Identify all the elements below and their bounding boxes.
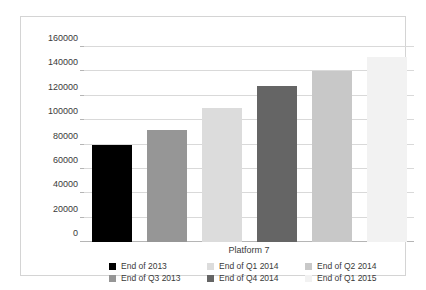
legend-label: End of Q1 2014	[219, 262, 279, 271]
y-tick-label: 20000	[53, 204, 78, 213]
bar	[367, 57, 407, 242]
legend-label: End of Q2 2014	[317, 262, 377, 271]
legend-label: End of Q3 2013	[121, 274, 181, 283]
legend-item[interactable]: End of Q1 2015	[305, 272, 397, 284]
bar	[147, 130, 187, 242]
y-tick-label: 40000	[53, 180, 78, 189]
legend-swatch-icon	[109, 263, 116, 270]
legend-item[interactable]: End of Q3 2013	[109, 272, 201, 284]
x-axis-title: Platform 7	[84, 245, 414, 255]
bar-chart: 0200004000060000800001000001200001400001…	[0, 0, 426, 290]
bars	[84, 47, 414, 242]
y-tick-label: 80000	[53, 131, 78, 140]
legend-label: End of Q4 2014	[219, 274, 279, 283]
legend-label: End of 2013	[121, 262, 167, 271]
y-tick-label: 160000	[48, 34, 78, 43]
y-tick-label: 120000	[48, 82, 78, 91]
bar	[257, 86, 297, 242]
plot-area: 0200004000060000800001000001200001400001…	[84, 47, 414, 242]
legend-swatch-icon	[305, 263, 312, 270]
legend-item[interactable]: End of Q1 2014	[207, 260, 299, 272]
y-tick-label: 140000	[48, 58, 78, 67]
legend-item[interactable]: End of 2013	[109, 260, 201, 272]
legend-swatch-icon	[207, 275, 214, 282]
y-tick-label: 0	[73, 229, 78, 238]
legend-swatch-icon	[109, 275, 116, 282]
bar	[312, 71, 352, 242]
bar	[92, 145, 132, 243]
legend-item[interactable]: End of Q4 2014	[207, 272, 299, 284]
y-tick-label: 60000	[53, 155, 78, 164]
chart-frame: 0200004000060000800001000001200001400001…	[20, 16, 406, 276]
y-tick-label: 100000	[48, 107, 78, 116]
chart-legend: End of 2013End of Q3 2013End of Q1 2014E…	[109, 260, 397, 284]
bar	[202, 108, 242, 242]
legend-label: End of Q1 2015	[317, 274, 377, 283]
legend-swatch-icon	[207, 263, 214, 270]
legend-swatch-icon	[305, 275, 312, 282]
legend-item[interactable]: End of Q2 2014	[305, 260, 397, 272]
